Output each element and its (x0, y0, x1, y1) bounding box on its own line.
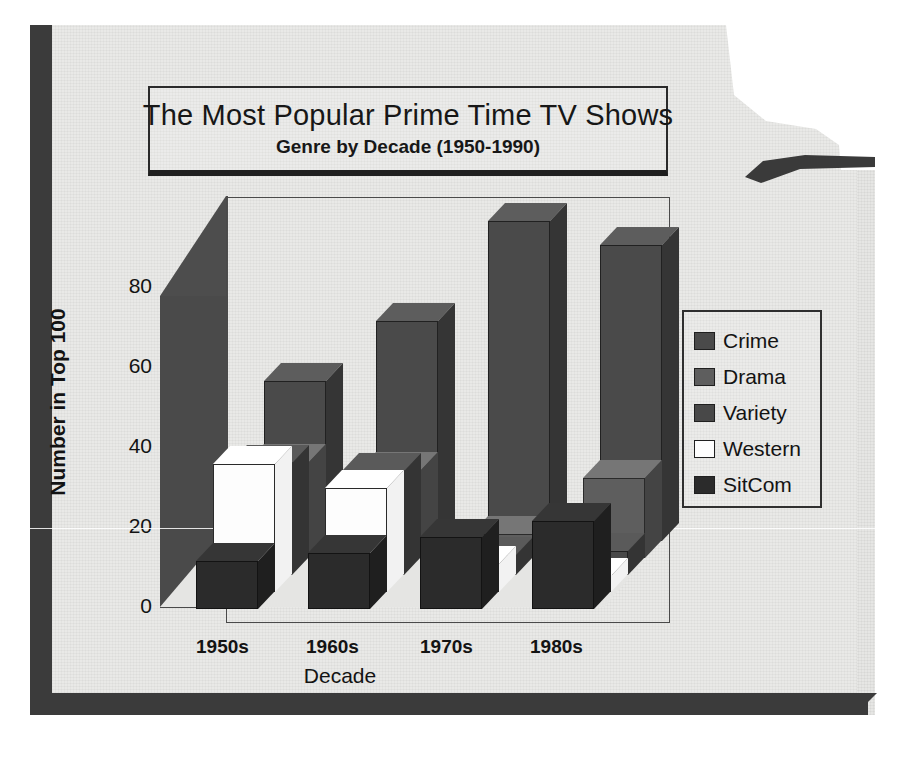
bar-side-face (275, 446, 293, 592)
chart-legend: CrimeDramaVarietyWesternSitCom (682, 310, 822, 508)
bar-sitcom-1970s (420, 519, 482, 608)
chart-title-box: The Most Popular Prime Time TV Shows Gen… (148, 86, 668, 176)
x-axis-label: Decade (0, 664, 680, 688)
binding-shadow-bottom (30, 693, 868, 715)
legend-swatch-crime-icon (694, 332, 715, 350)
bar-outline (420, 537, 482, 609)
chart-title: The Most Popular Prime Time TV Shows (143, 100, 673, 130)
legend-swatch-western-icon (694, 440, 715, 458)
bar-side-face (438, 303, 456, 541)
legend-item-western[interactable]: Western (694, 431, 820, 467)
legend-swatch-sitcom-icon (694, 476, 715, 494)
legend-label: Crime (723, 329, 779, 353)
bar-side-face (550, 203, 568, 541)
bar-outline (308, 553, 370, 609)
bar-sitcom-1960s (308, 535, 370, 608)
y-tick-40: 40 (92, 434, 152, 458)
legend-item-crime[interactable]: Crime (694, 323, 820, 359)
y-axis-label: Number in Top 100 (46, 292, 70, 512)
bar-outline (196, 561, 258, 609)
legend-swatch-drama-icon (694, 368, 715, 386)
y-tick-60: 60 (92, 354, 152, 378)
bar-side-face (387, 470, 405, 592)
y-tick-80: 80 (92, 274, 152, 298)
legend-swatch-variety-icon (694, 404, 715, 422)
x-tick-1980s: 1980s (530, 636, 583, 658)
x-tick-1970s: 1970s (420, 636, 473, 658)
x-tick-1960s: 1960s (306, 636, 359, 658)
legend-label: Drama (723, 365, 786, 389)
legend-item-drama[interactable]: Drama (694, 359, 820, 395)
legend-label: SitCom (723, 473, 792, 497)
y-tick-20: 20 (92, 514, 152, 538)
bar-crime-1970s (488, 203, 550, 540)
bar-outline (532, 521, 594, 609)
bar-sitcom-1950s (196, 543, 258, 608)
bar-side-face (662, 227, 680, 541)
legend-item-sitcom[interactable]: SitCom (694, 467, 820, 503)
legend-item-variety[interactable]: Variety (694, 395, 820, 431)
bar-sitcom-1980s (532, 503, 594, 608)
legend-label: Western (723, 437, 801, 461)
x-axis-ticks: 1950s1960s1970s1980s (0, 636, 903, 666)
bar-outline (488, 221, 550, 541)
chart-subtitle: Genre by Decade (1950-1990) (276, 136, 540, 158)
legend-label: Variety (723, 401, 787, 425)
scanned-page: The Most Popular Prime Time TV Shows Gen… (0, 0, 903, 759)
y-tick-0: 0 (92, 594, 152, 618)
x-tick-1950s: 1950s (196, 636, 249, 658)
